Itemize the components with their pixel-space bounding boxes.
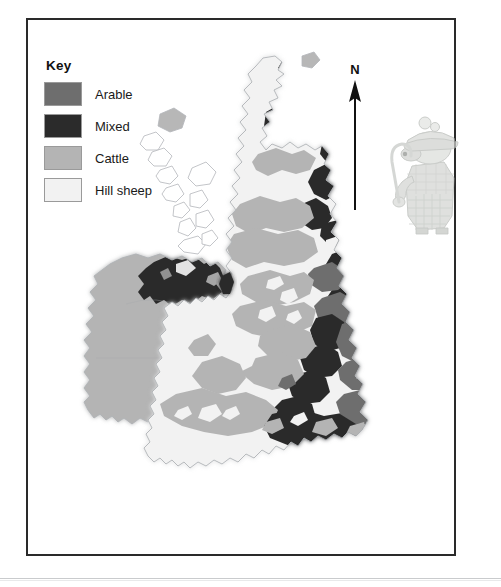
bottom-divider-secondary — [0, 580, 501, 581]
north-arrow-graphic — [338, 62, 372, 212]
shepherd-character-illustration — [378, 104, 478, 236]
legend-label-hill-sheep: Hill sheep — [95, 183, 152, 198]
legend-label-mixed: Mixed — [95, 119, 130, 134]
map-legend: Key Arable Mixed Cattle Hill sheep — [44, 58, 194, 210]
north-arrow: N — [338, 62, 372, 212]
legend-item-hill-sheep[interactable]: Hill sheep — [44, 178, 194, 202]
legend-swatch-arable — [44, 82, 82, 106]
bottom-divider — [0, 578, 501, 579]
legend-swatch-cattle — [44, 146, 82, 170]
legend-label-arable: Arable — [95, 87, 133, 102]
legend-swatch-mixed — [44, 114, 82, 138]
legend-swatch-hill-sheep — [44, 178, 82, 202]
legend-label-cattle: Cattle — [95, 151, 129, 166]
legend-title: Key — [46, 58, 194, 73]
legend-item-mixed[interactable]: Mixed — [44, 114, 194, 138]
legend-item-cattle[interactable]: Cattle — [44, 146, 194, 170]
legend-item-arable[interactable]: Arable — [44, 82, 194, 106]
